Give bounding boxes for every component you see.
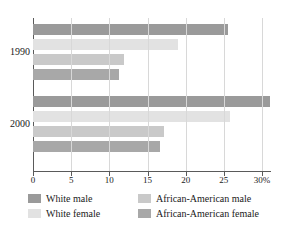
legend-swatch — [28, 209, 41, 218]
gridline — [71, 18, 72, 171]
legend-swatch — [138, 194, 151, 203]
legend-label: White female — [46, 208, 100, 220]
legend-item: White female — [28, 206, 138, 221]
x-axis-tick-label: 5 — [69, 175, 74, 186]
legend-swatch — [28, 194, 41, 203]
x-axis-tick-label: 15 — [143, 175, 152, 186]
gridline — [148, 18, 149, 171]
x-axis-tick-label: 10 — [105, 175, 114, 186]
x-axis-tick-label: 25 — [219, 175, 228, 186]
x-axis-tick-label: 20 — [181, 175, 190, 186]
gridline — [109, 18, 110, 171]
bar — [33, 126, 164, 137]
bar — [33, 24, 228, 35]
bar — [33, 96, 270, 107]
legend-item: White male — [28, 191, 138, 206]
legend-swatch — [138, 209, 151, 218]
bar — [33, 111, 230, 122]
y-axis-group-label: 2000 — [0, 118, 30, 130]
legend-item: African-American female — [138, 206, 276, 221]
x-axis-tick-label: 30% — [254, 175, 271, 186]
y-axis-group-label: 1990 — [0, 46, 30, 58]
legend-label: White male — [46, 193, 92, 205]
legend-item: African-American male — [138, 191, 276, 206]
bar — [33, 39, 178, 50]
chart-legend: White maleAfrican-American maleWhite fem… — [28, 191, 276, 221]
x-axis-line — [33, 171, 271, 172]
x-axis-tick-label: 0 — [31, 175, 36, 186]
legend-label: African-American female — [156, 208, 259, 220]
bar — [33, 69, 119, 80]
legend-label: African-American male — [156, 193, 251, 205]
bar-chart: 051015202530% 19902000 White maleAfrican… — [0, 0, 281, 225]
gridline — [186, 18, 187, 171]
gridline — [262, 18, 263, 171]
bar — [33, 141, 160, 152]
gridline — [224, 18, 225, 171]
